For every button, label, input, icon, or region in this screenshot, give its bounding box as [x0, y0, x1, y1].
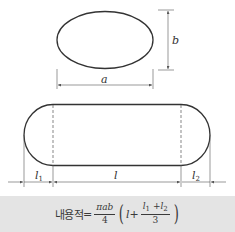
label-b: b	[172, 35, 179, 46]
tank-side-view	[24, 105, 210, 166]
formula-coefficient: πab 4	[94, 203, 115, 225]
formula-close-paren: )	[174, 203, 179, 225]
label-l: l	[114, 170, 118, 181]
ellipse-cross-section	[57, 12, 153, 69]
formula-plus: +	[129, 208, 138, 221]
formula-inner-fraction: l1 +l2 3	[141, 202, 170, 226]
label-l1: l1	[35, 170, 43, 183]
formula-equals: =	[83, 208, 92, 221]
label-a: a	[101, 74, 108, 85]
formula-lhs: 내용적	[55, 206, 84, 222]
formula-band: 내용적 = πab 4 ( l + l1 +l2 3 )	[0, 196, 235, 232]
volume-formula: 내용적 = πab 4 ( l + l1 +l2 3 )	[55, 202, 181, 226]
tank-diagram	[0, 0, 235, 196]
label-l2: l2	[192, 170, 200, 183]
formula-open-paren: (	[119, 203, 124, 225]
